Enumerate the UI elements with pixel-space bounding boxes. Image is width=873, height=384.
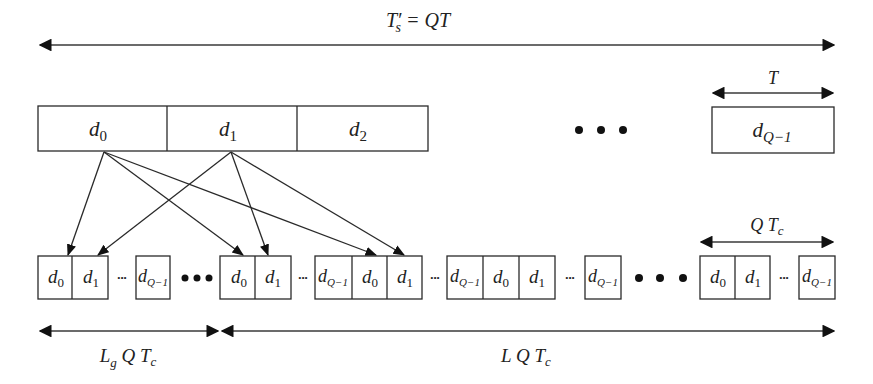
group-separator-dots — [182, 275, 213, 282]
data-duration-label: L Q Tc — [500, 345, 551, 369]
svg-text:•••: ••• — [779, 273, 788, 283]
guard-duration-label: Lg Q Tc — [99, 345, 157, 370]
symbol-period-label: T — [768, 68, 780, 88]
symbol-row: d0 d1 d2 dQ−1 T — [38, 68, 834, 153]
total-duration-label: T′s = QT — [386, 9, 452, 35]
svg-text:•••: ••• — [565, 273, 574, 283]
chip-group-2: d0 d1 ••• — [220, 256, 308, 299]
ellipsis-dots — [575, 126, 627, 134]
spreading-diagram: T′s = QT d0 d1 d2 dQ−1 T Q Tc — [0, 0, 873, 384]
chip-period-label: Q Tc — [750, 215, 784, 238]
svg-text:•••: ••• — [298, 273, 307, 283]
chip-group-5: d0 d1 ••• dQ−1 — [700, 256, 835, 299]
guard-dimension: Lg Q Tc — [40, 331, 218, 370]
data-dimension: L Q Tc — [222, 331, 834, 369]
chip-row: d0 d1 ••• dQ−1 d0 d1 ••• dQ−1 d0 d1 — [38, 256, 835, 299]
svg-text:•••: ••• — [117, 273, 126, 283]
total-duration-dimension: T′s = QT — [40, 9, 834, 45]
group-separator-dots-2 — [635, 274, 687, 282]
chip-group-1: d0 d1 ••• dQ−1 — [38, 256, 170, 299]
chip-group-3: dQ−1 d0 d1 ••• — [315, 256, 440, 299]
spreading-arrows — [68, 152, 404, 255]
chip-period-dimension: Q Tc — [701, 215, 833, 242]
chip-group-4: dQ−1 d0 d1 ••• dQ−1 — [447, 256, 621, 299]
svg-text:•••: ••• — [430, 273, 439, 283]
